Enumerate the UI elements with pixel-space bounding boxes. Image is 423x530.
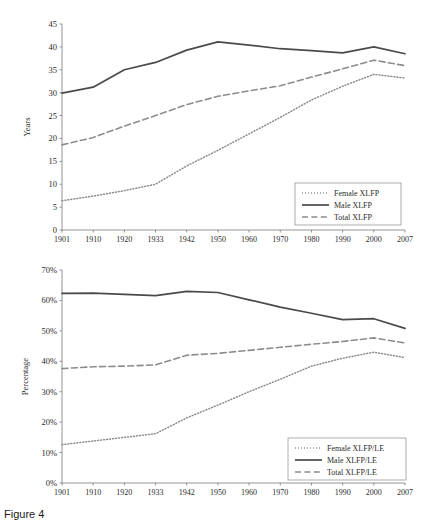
x-tick-label: 1933 (148, 488, 164, 497)
y-tick-label: 30 (49, 88, 58, 98)
y-tick-label: 50% (41, 326, 57, 336)
chart-years-xlfp: 0510152025303540451901191019201933194219… (0, 0, 423, 255)
y-tick-label: 20 (49, 133, 58, 143)
y-tick-label: 40 (49, 42, 58, 52)
x-tick-label: 1920 (116, 235, 132, 244)
x-tick-label: 1980 (303, 488, 319, 497)
x-tick-label: 1970 (272, 488, 288, 497)
legend-label-1: Female XLFP/LE (327, 444, 384, 453)
x-tick-label: 1950 (210, 488, 226, 497)
x-tick-label: 1901 (54, 235, 70, 244)
y-axis-title: Years (22, 118, 32, 137)
x-tick-label: 2000 (366, 488, 382, 497)
y-tick-label: 0% (46, 478, 57, 488)
y-tick-label: 45 (49, 19, 58, 29)
x-tick-label: 1960 (241, 488, 257, 497)
x-tick-label: 1960 (241, 235, 257, 244)
x-tick-label: 1910 (85, 488, 101, 497)
y-tick-label: 10 (49, 179, 58, 189)
x-tick-label: 1990 (335, 488, 351, 497)
legend-label-3: Total XLFP/LE (327, 468, 377, 477)
y-tick-label: 15 (49, 156, 58, 166)
x-tick-label: 1980 (303, 235, 319, 244)
x-tick-label: 1950 (210, 235, 226, 244)
series-line-total-xlfp (62, 60, 405, 145)
y-tick-label: 20% (41, 417, 57, 427)
y-tick-label: 70% (41, 265, 57, 275)
x-tick-label: 1942 (179, 235, 195, 244)
figure-container: 0510152025303540451901191019201933194219… (0, 0, 423, 530)
y-tick-label: 30% (41, 387, 57, 397)
series-line-total-xlfp-le (62, 338, 405, 369)
y-tick-label: 25 (49, 111, 58, 121)
y-tick-label: 40% (41, 356, 57, 366)
x-tick-label: 1901 (54, 488, 70, 497)
x-tick-label: 1920 (116, 488, 132, 497)
chart-svg-bottom: 0%10%20%30%40%50%60%70%19011910192019331… (0, 258, 423, 506)
series-line-male-xlfp (62, 42, 405, 93)
y-tick-label: 35 (49, 65, 58, 75)
legend-label-2: Male XLFP (334, 201, 373, 210)
x-tick-label: 2007 (397, 235, 413, 244)
chart-svg-top: 0510152025303540451901191019201933194219… (0, 0, 423, 255)
y-tick-label: 5 (53, 202, 57, 212)
x-tick-label: 2000 (366, 235, 382, 244)
x-tick-label: 1910 (85, 235, 101, 244)
figure-caption: Figure 4 (4, 508, 44, 520)
x-tick-label: 1933 (148, 235, 164, 244)
chart-percentage-xlfp-le: 0%10%20%30%40%50%60%70%19011910192019331… (0, 258, 423, 506)
y-axis-title: Percentage (20, 358, 30, 396)
x-tick-label: 1942 (179, 488, 195, 497)
legend-label-1: Female XLFP (334, 189, 380, 198)
series-line-male-xlfp-le (62, 291, 405, 328)
x-tick-label: 1990 (335, 235, 351, 244)
y-tick-label: 10% (41, 448, 57, 458)
y-tick-label: 60% (41, 295, 57, 305)
y-tick-label: 0 (53, 225, 57, 235)
legend-label-3: Total XLFP (334, 213, 372, 222)
legend-label-2: Male XLFP/LE (327, 456, 377, 465)
x-tick-label: 2007 (397, 488, 413, 497)
x-tick-label: 1970 (272, 235, 288, 244)
